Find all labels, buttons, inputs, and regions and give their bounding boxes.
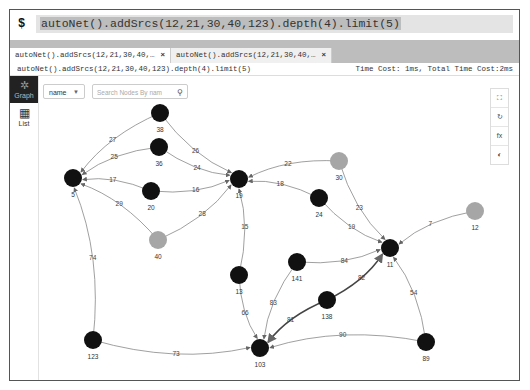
edge-label: 29 bbox=[116, 200, 124, 207]
edge-label: 84 bbox=[341, 257, 349, 264]
graph-edge[interactable] bbox=[82, 147, 159, 175]
node-label: 38 bbox=[156, 126, 164, 133]
edge-label: 25 bbox=[111, 153, 119, 160]
node-label: 20 bbox=[147, 204, 155, 211]
node-label: 5 bbox=[71, 191, 75, 198]
edge-label: 22 bbox=[284, 160, 292, 167]
node-label: 19 bbox=[235, 192, 243, 199]
edge-label: 81 bbox=[287, 316, 295, 323]
graph-edge[interactable] bbox=[339, 161, 385, 239]
node-label: 11 bbox=[387, 261, 394, 268]
graph-edge[interactable] bbox=[239, 189, 245, 275]
graph-edge[interactable] bbox=[249, 181, 319, 198]
edge-label: 82 bbox=[358, 274, 366, 281]
graph-node[interactable] bbox=[151, 104, 169, 122]
edge-label: 83 bbox=[270, 299, 278, 306]
node-label: 12 bbox=[471, 224, 479, 231]
edge-label: 28 bbox=[199, 210, 207, 217]
graph-nodes: 38365201940302412111411313812310389 bbox=[64, 104, 484, 368]
edge-label: 19 bbox=[348, 223, 356, 230]
graph-node[interactable] bbox=[288, 253, 306, 271]
graph-node[interactable] bbox=[149, 231, 167, 249]
graph-edge[interactable] bbox=[268, 300, 327, 342]
graph-edge[interactable] bbox=[239, 275, 257, 338]
graph-edge[interactable] bbox=[81, 113, 160, 172]
graph-node[interactable] bbox=[251, 339, 269, 357]
graph-edge[interactable] bbox=[399, 211, 475, 244]
edge-label: 90 bbox=[339, 331, 347, 338]
graph-node[interactable] bbox=[417, 333, 435, 351]
edge-label: 54 bbox=[410, 289, 418, 296]
graph-node[interactable] bbox=[142, 182, 160, 200]
node-label: 13 bbox=[235, 288, 243, 295]
edge-label: 16 bbox=[192, 186, 200, 193]
graph-node[interactable] bbox=[84, 331, 102, 349]
edge-label: 26 bbox=[192, 147, 200, 154]
node-label: 141 bbox=[292, 275, 303, 282]
edge-label: 23 bbox=[356, 204, 364, 211]
node-label: 24 bbox=[315, 211, 323, 218]
edge-label: 24 bbox=[193, 164, 201, 171]
graph-node[interactable] bbox=[318, 291, 336, 309]
node-label: 40 bbox=[154, 253, 162, 260]
edge-label: 74 bbox=[89, 254, 97, 261]
edge-label: 17 bbox=[109, 176, 117, 183]
graph-node[interactable] bbox=[381, 239, 399, 257]
node-label: 123 bbox=[88, 353, 99, 360]
graph-edge[interactable] bbox=[151, 180, 229, 192]
edge-label: 15 bbox=[241, 223, 249, 230]
graph-edge[interactable] bbox=[249, 161, 339, 178]
edge-label: 27 bbox=[109, 136, 117, 143]
graph-canvas[interactable]: 2726252417162928221823197158482547466838… bbox=[0, 0, 530, 390]
edge-label: 7 bbox=[428, 220, 432, 227]
graph-edge[interactable] bbox=[74, 188, 95, 340]
node-label: 138 bbox=[322, 313, 333, 320]
node-label: 36 bbox=[155, 160, 163, 167]
edge-label: 73 bbox=[172, 350, 180, 357]
graph-node[interactable] bbox=[230, 170, 248, 188]
graph-node[interactable] bbox=[310, 189, 328, 207]
graph-edge[interactable] bbox=[297, 249, 380, 262]
edge-label: 66 bbox=[242, 309, 250, 316]
edge-label: 18 bbox=[277, 180, 285, 187]
graph-edge[interactable] bbox=[319, 198, 382, 242]
graph-node[interactable] bbox=[466, 202, 484, 220]
node-label: 89 bbox=[422, 355, 430, 362]
graph-node[interactable] bbox=[330, 152, 348, 170]
graph-node[interactable] bbox=[64, 169, 82, 187]
graph-edge[interactable] bbox=[394, 257, 426, 342]
node-label: 30 bbox=[335, 174, 343, 181]
node-label: 103 bbox=[255, 361, 266, 368]
graph-node[interactable] bbox=[230, 266, 248, 284]
graph-edge[interactable] bbox=[270, 335, 426, 348]
graph-edge[interactable] bbox=[327, 254, 382, 300]
graph-node[interactable] bbox=[150, 138, 168, 156]
graph-edges: 2726252417162928221823197158482547466838… bbox=[74, 113, 475, 357]
